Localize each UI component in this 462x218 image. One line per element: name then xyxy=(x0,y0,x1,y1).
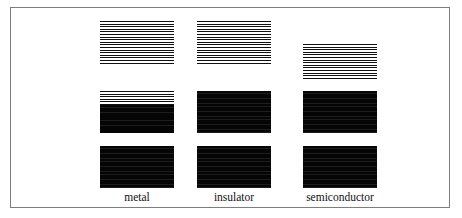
band-semiconductor-lower-band xyxy=(303,146,377,188)
figure-frame: metal insulator semiconductor xyxy=(10,7,450,208)
band-metal-conduction-band xyxy=(100,21,174,65)
band-metal-partially-filled-band xyxy=(100,91,174,133)
band-metal-partial-empty-portion xyxy=(100,91,174,105)
figure-root: metal insulator semiconductor xyxy=(0,0,462,218)
band-semiconductor-conduction-band xyxy=(303,44,377,79)
band-semiconductor-valence-band xyxy=(303,91,377,133)
bands-area: metal insulator semiconductor xyxy=(11,8,451,209)
band-insulator-conduction-band xyxy=(197,21,271,65)
band-metal-valence-band xyxy=(100,146,174,188)
band-insulator-valence-band xyxy=(197,91,271,133)
band-insulator-lower-band xyxy=(197,146,271,188)
column-label-semiconductor: semiconductor xyxy=(265,191,415,204)
band-metal-partial-filled-portion xyxy=(100,105,174,133)
